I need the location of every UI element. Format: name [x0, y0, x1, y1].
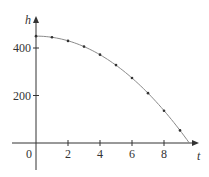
- data-point: [67, 40, 70, 43]
- x-tick-label: 4: [97, 147, 103, 161]
- x-tick-label: 8: [161, 147, 167, 161]
- data-point: [83, 45, 86, 48]
- data-point: [131, 77, 134, 80]
- y-axis-label: h: [25, 13, 31, 27]
- axes: [12, 16, 199, 170]
- data-point: [115, 64, 118, 67]
- y-tick-label: 200: [13, 89, 31, 103]
- y-axis-arrow-icon: [33, 16, 39, 23]
- x-tick-label: 2: [65, 147, 71, 161]
- data-point: [99, 53, 102, 56]
- data-point: [35, 35, 38, 38]
- x-tick-label: 0: [26, 147, 32, 161]
- chart: 02468200400 t h: [0, 0, 209, 177]
- ticks: [33, 48, 164, 146]
- data-point: [51, 36, 54, 39]
- y-tick-label: 400: [13, 41, 31, 55]
- data-point: [147, 92, 150, 95]
- x-axis-arrow-icon: [192, 140, 199, 146]
- x-axis-label: t: [197, 149, 201, 163]
- data-points: [35, 35, 182, 132]
- curve: [36, 36, 189, 143]
- x-tick-label: 6: [129, 147, 135, 161]
- data-point: [163, 109, 166, 112]
- data-point: [179, 129, 182, 132]
